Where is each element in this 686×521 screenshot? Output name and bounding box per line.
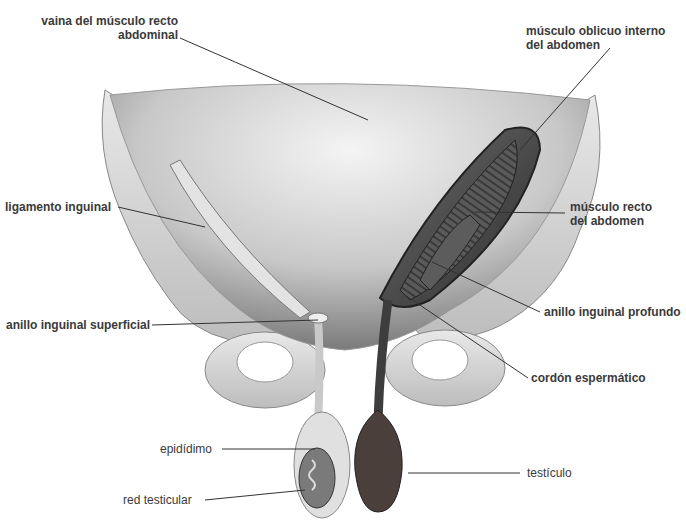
label-anillo-superficial: anillo inguinal superficial [6, 318, 150, 332]
label-musculo-recto: músculo recto del abdomen [570, 200, 652, 228]
label-ligamento-inguinal: ligamento inguinal [5, 200, 111, 214]
label-line: vaina del músculo recto [38, 14, 178, 28]
label-line: músculo recto [570, 200, 652, 214]
label-line: cordón espermático [531, 371, 646, 385]
label-testiculo: testículo [527, 466, 572, 480]
label-line: abdominal [38, 28, 178, 42]
label-oblicuo-interno: músculo oblicuo interno del abdomen [526, 24, 665, 52]
label-line: anillo inguinal superficial [6, 318, 150, 332]
label-line: epidídimo [160, 442, 212, 456]
label-cordon-espermatico: cordón espermático [531, 371, 646, 385]
label-line: del abdomen [526, 38, 665, 52]
label-line: red testicular [123, 493, 192, 507]
right-testis [355, 410, 402, 512]
label-line: del abdomen [570, 214, 652, 228]
label-vaina-recto-abdominal: vaina del músculo recto abdominal [38, 14, 178, 42]
label-red-testicular: red testicular [123, 493, 192, 507]
label-anillo-profundo: anillo inguinal profundo [544, 305, 681, 319]
label-line: anillo inguinal profundo [544, 305, 681, 319]
label-line: músculo oblicuo interno [526, 24, 665, 38]
label-epididimo: epidídimo [160, 442, 212, 456]
anatomy-illustration [0, 0, 686, 521]
label-line: ligamento inguinal [5, 200, 111, 214]
label-line: testículo [527, 466, 572, 480]
